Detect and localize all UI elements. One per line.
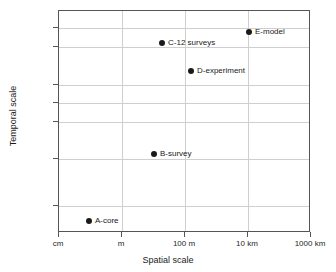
y-tick-mark xyxy=(53,121,58,122)
x-tick-mark xyxy=(310,232,311,237)
scatter-chart-figure: A-coreB-surveyC-12 surveysD-experimentE-… xyxy=(0,0,336,272)
data-point-label: E-model xyxy=(255,27,285,37)
data-point-marker[interactable] xyxy=(188,68,194,74)
data-point-marker[interactable] xyxy=(86,218,92,224)
gridline-horizontal xyxy=(59,206,309,207)
x-tick-mark xyxy=(58,232,59,237)
x-tick-mark xyxy=(184,232,185,237)
y-tick-mark xyxy=(53,27,58,28)
y-tick-mark xyxy=(53,84,58,85)
data-point-label: D-experiment xyxy=(197,66,245,76)
data-point-marker[interactable] xyxy=(151,151,157,157)
plot-area: A-coreB-surveyC-12 surveysD-experimentE-… xyxy=(58,10,310,232)
y-axis-title: Temporal scale xyxy=(8,56,18,176)
x-tick-label: 1000 km xyxy=(295,239,326,248)
y-tick-mark xyxy=(53,46,58,47)
data-point-label: C-12 surveys xyxy=(168,38,215,48)
gridline-horizontal xyxy=(59,159,309,160)
gridline-horizontal xyxy=(59,103,309,104)
data-point-label: A-core xyxy=(95,216,119,226)
y-tick-mark xyxy=(53,102,58,103)
gridline-vertical xyxy=(248,11,249,231)
gridline-horizontal xyxy=(59,85,309,86)
x-tick-label: cm xyxy=(53,239,64,248)
x-axis-title: Spatial scale xyxy=(0,255,336,265)
gridline-horizontal xyxy=(59,122,309,123)
gridline-vertical xyxy=(122,11,123,231)
data-point-marker[interactable] xyxy=(159,40,165,46)
x-tick-mark xyxy=(247,232,248,237)
data-point-label: B-survey xyxy=(160,149,192,159)
x-tick-mark xyxy=(121,232,122,237)
y-tick-mark xyxy=(53,158,58,159)
x-tick-label: m xyxy=(118,239,125,248)
x-tick-label: 10 km xyxy=(236,239,258,248)
x-tick-label: 100 m xyxy=(173,239,195,248)
y-tick-mark xyxy=(53,205,58,206)
data-point-marker[interactable] xyxy=(246,29,252,35)
